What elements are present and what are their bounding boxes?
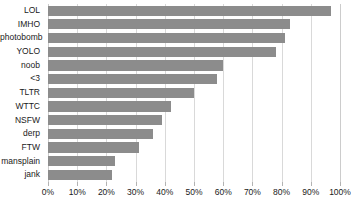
y-axis-label: derp [0, 127, 44, 141]
x-axis-tick-label: 40% [156, 187, 173, 197]
bar-row [48, 100, 340, 114]
bar [48, 6, 331, 16]
bar [48, 19, 290, 29]
y-axis-label: YOLO [0, 45, 44, 59]
x-axis-tick [48, 182, 49, 186]
x-axis-tick [252, 182, 253, 186]
x-axis-tick [223, 182, 224, 186]
x-axis-tick-label: 70% [244, 187, 261, 197]
bar-row [48, 4, 340, 18]
bar-row [48, 114, 340, 128]
x-axis-tick [282, 182, 283, 186]
x-axis-tick-label: 80% [273, 187, 290, 197]
bar-row [48, 86, 340, 100]
y-axis-label: IMHO [0, 18, 44, 32]
gridline [340, 4, 341, 182]
x-axis-ticks [48, 182, 340, 186]
bar-row [48, 155, 340, 169]
y-axis-label: noob [0, 59, 44, 73]
x-axis-tick-labels: 0%10%20%30%40%50%60%70%80%90%100% [0, 187, 351, 201]
x-axis-tick-label: 100% [329, 187, 351, 197]
bar [48, 101, 171, 111]
x-axis-tick-label: 60% [215, 187, 232, 197]
bar [48, 156, 115, 166]
bar-row [48, 141, 340, 155]
x-axis-tick [340, 182, 341, 186]
bar-row [48, 72, 340, 86]
y-axis-label: TLTR [0, 86, 44, 100]
x-axis-tick [77, 182, 78, 186]
x-axis-tick [311, 182, 312, 186]
plot-area [48, 4, 340, 182]
x-axis-tick-label: 50% [185, 187, 202, 197]
y-axis-label: mansplain [0, 155, 44, 169]
y-axis-label: photobomb [0, 31, 44, 45]
bar [48, 115, 162, 125]
bar [48, 33, 285, 43]
x-axis-tick-label: 30% [127, 187, 144, 197]
y-axis-label: jank [0, 168, 44, 182]
bar-row [48, 127, 340, 141]
bar-row [48, 31, 340, 45]
x-axis-tick [136, 182, 137, 186]
bar [48, 60, 223, 70]
x-axis-tick [106, 182, 107, 186]
x-axis-tick-label: 10% [69, 187, 86, 197]
x-axis-tick [165, 182, 166, 186]
bar [48, 74, 217, 84]
x-axis-tick-label: 20% [98, 187, 115, 197]
y-axis-label: <3 [0, 72, 44, 86]
bar-row [48, 59, 340, 73]
bar-rows [48, 4, 340, 182]
bar-row [48, 168, 340, 182]
y-axis-category-labels: LOLIMHOphotobombYOLOnoob<3TLTRWTTCNSFWde… [0, 4, 44, 182]
bar [48, 142, 139, 152]
bar-row [48, 18, 340, 32]
y-axis-label: WTTC [0, 100, 44, 114]
bar [48, 88, 194, 98]
bar [48, 47, 276, 57]
y-axis-label: LOL [0, 4, 44, 18]
x-axis-tick [194, 182, 195, 186]
y-axis-label: FTW [0, 141, 44, 155]
bar-chart: LOLIMHOphotobombYOLOnoob<3TLTRWTTCNSFWde… [0, 0, 351, 211]
y-axis-label: NSFW [0, 114, 44, 128]
x-axis-tick-label: 90% [302, 187, 319, 197]
bar-row [48, 45, 340, 59]
x-axis-tick-label: 0% [42, 187, 54, 197]
bar [48, 170, 112, 180]
bar [48, 129, 153, 139]
